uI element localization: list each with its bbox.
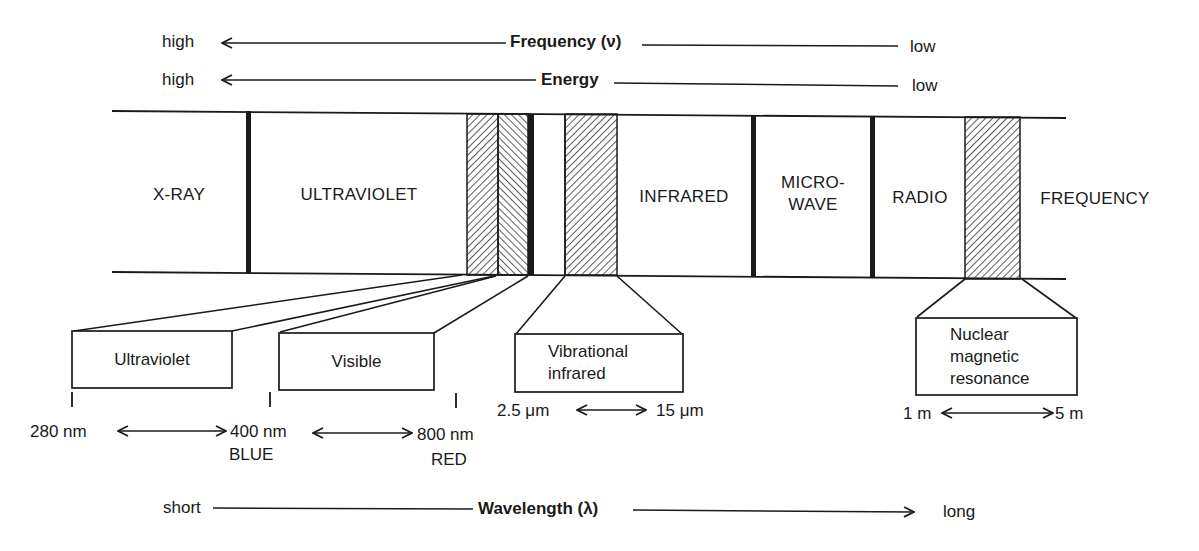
range-ticks: [72, 392, 456, 408]
nmr-end-label: 5 m: [1055, 405, 1083, 422]
energy-low-label: low: [912, 77, 938, 94]
region-radio: RADIO: [875, 187, 965, 209]
energy-axis-title: Energy: [541, 71, 599, 88]
box-nmr-line1: Nuclear: [950, 324, 1029, 346]
visible-end-color-label: RED: [431, 451, 467, 468]
box-vibrational-line2: infrared: [548, 363, 628, 385]
box-nmr-line2: magnetic: [950, 346, 1029, 368]
box-vibrational-text: Vibrational infrared: [548, 341, 628, 385]
hatch-nmr-window: [965, 117, 1020, 279]
uv-callout-lines: [74, 275, 494, 331]
box-vibrational-line1: Vibrational: [548, 341, 628, 363]
ir-callout-lines: [516, 276, 682, 334]
hatch-uv-window: [467, 114, 498, 275]
energy-high-label: high: [162, 71, 194, 88]
region-ultraviolet: ULTRAVIOLET: [251, 184, 467, 206]
ir-end-label: 15 μm: [656, 402, 704, 419]
visible-callout-lines: [280, 276, 528, 333]
nmr-start-label: 1 m: [903, 405, 931, 422]
box-nmr-text: Nuclear magnetic resonance: [950, 324, 1029, 390]
region-infrared: INFRARED: [617, 186, 751, 208]
visible-end-label: 800 nm: [417, 426, 474, 443]
box-visible-label: Visible: [279, 351, 434, 373]
wavelength-long-label: long: [943, 503, 975, 520]
uv-start-label: 280 nm: [30, 423, 87, 440]
region-microwave-line2: WAVE: [756, 194, 870, 216]
hatch-visible-window: [498, 114, 528, 275]
frequency-low-label: low: [910, 38, 936, 55]
hatch-ir-window: [565, 114, 617, 275]
uv-end-label: 400 nm: [230, 423, 287, 440]
box-ultraviolet-label: Ultraviolet: [72, 349, 232, 371]
region-frequency: FREQUENCY: [1020, 188, 1170, 210]
region-microwave-line1: MICRO-: [756, 172, 870, 194]
region-microwave: MICRO- WAVE: [756, 172, 870, 216]
ir-start-label: 2.5 μm: [497, 402, 549, 419]
wavelength-axis-title: Wavelength (λ): [478, 500, 598, 517]
uv-end-color-label: BLUE: [229, 446, 273, 463]
region-xray: X-RAY: [112, 184, 246, 206]
box-nmr-line3: resonance: [950, 368, 1029, 390]
nmr-callout-lines: [917, 279, 1076, 318]
wavelength-short-label: short: [163, 499, 201, 516]
divider-visible-ir: [528, 114, 534, 275]
frequency-axis-title: Frequency (ν): [510, 33, 621, 50]
frequency-high-label: high: [162, 33, 194, 50]
